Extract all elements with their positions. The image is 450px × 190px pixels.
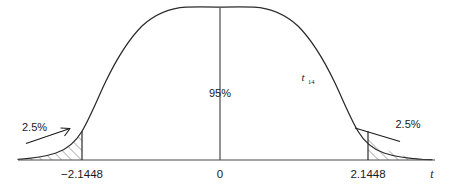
curve-label: t 14	[301, 71, 315, 85]
t-distribution-figure: 2.5% 2.5% 95% t 14 −2.1448 0 2.1448 t	[0, 0, 450, 190]
tick-label-right: 2.1448	[350, 168, 385, 180]
x-axis-label: t	[430, 167, 434, 181]
right-tail-label: 2.5%	[395, 118, 420, 130]
curve-label-base: t	[301, 71, 305, 83]
central-area-label: 95%	[209, 87, 231, 99]
curve-label-subscript: 14	[308, 78, 315, 85]
t-distribution-plot: 2.5% 2.5% 95% t 14 −2.1448 0 2.1448 t	[0, 0, 450, 190]
left-tail-label: 2.5%	[22, 121, 47, 133]
tick-label-center: 0	[217, 168, 223, 180]
right-tail-leader-line	[355, 128, 400, 142]
tick-label-left: −2.1448	[61, 168, 103, 180]
